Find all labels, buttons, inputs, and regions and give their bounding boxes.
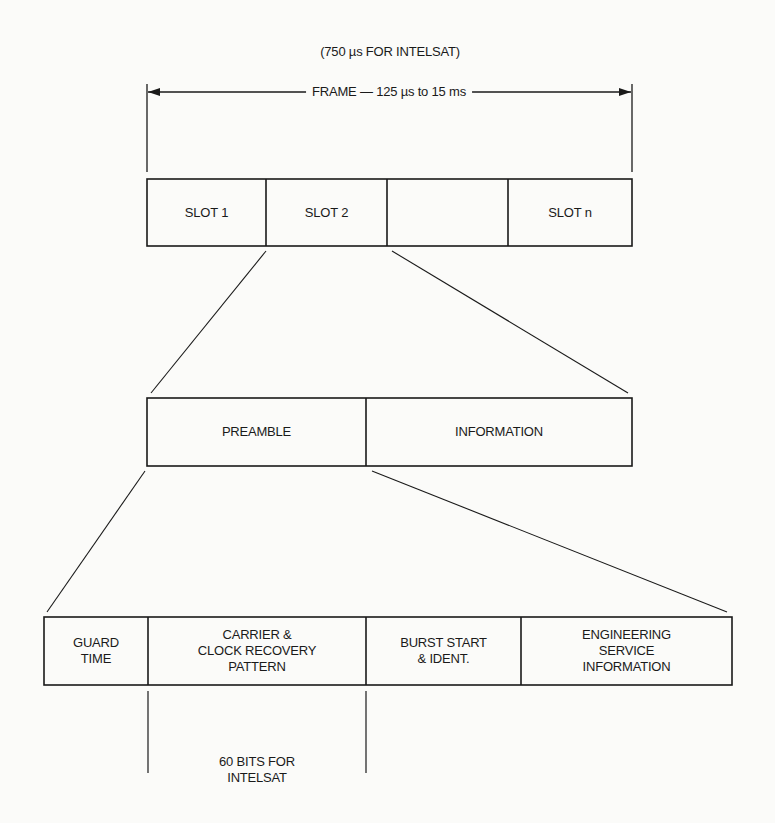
expansion-lines-slot [151,251,628,393]
engineering-service-section: ENGINEERING SERVICE INFORMATION [521,617,732,685]
preamble-section: PREAMBLE [147,398,366,466]
slot-1: SLOT 1 [147,179,266,246]
slot-label: SLOT n [548,205,591,221]
section-line: CARRIER & [223,627,292,643]
section-line: PATTERN [228,659,285,675]
section-line: & IDENT. [418,651,470,667]
slot-ellipsis [387,179,508,246]
note-line: INTELSAT [227,770,287,786]
slot-n: SLOT n [508,179,632,246]
intelsat-frame-note: (750 µs FOR INTELSAT) [320,44,460,60]
section-line: BURST START [400,635,487,651]
note-line: 60 BITS FOR [219,754,295,770]
slot-2: SLOT 2 [266,179,387,246]
frame-duration-label: FRAME — 125 µs to 15 ms [306,84,472,100]
recovery-bits-note: 60 BITS FOR INTELSAT [148,752,366,788]
section-line: CLOCK RECOVERY [198,643,316,659]
slot-label: SLOT 2 [305,205,348,221]
carrier-clock-recovery-section: CARRIER & CLOCK RECOVERY PATTERN [148,617,366,685]
section-line: ENGINEERING [582,627,671,643]
section-line: INFORMATION [583,659,671,675]
section-label: PREAMBLE [222,424,291,440]
information-section: INFORMATION [366,398,632,466]
section-line: TIME [81,651,111,667]
section-label: INFORMATION [455,424,543,440]
slot-label: SLOT 1 [185,205,228,221]
guard-time-section: GUARD TIME [44,617,148,685]
section-line: SERVICE [599,643,654,659]
section-line: GUARD [73,635,119,651]
expansion-lines-preamble [47,471,727,612]
burst-start-section: BURST START & IDENT. [366,617,521,685]
